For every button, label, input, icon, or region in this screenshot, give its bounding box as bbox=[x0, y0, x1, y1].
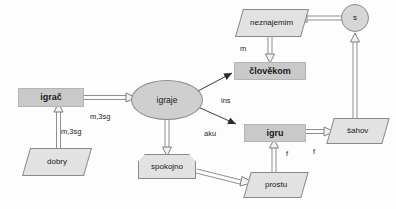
node-neznajemim[interactable]: neznajemim bbox=[235, 9, 309, 37]
node-spokojno[interactable]: spokojno bbox=[138, 154, 196, 179]
diagram-canvas: igrač dobry igraje spokojno člověkom nez… bbox=[0, 0, 396, 209]
node-igrac-label: igrač bbox=[40, 93, 62, 102]
node-clovekom-label: člověkom bbox=[249, 67, 291, 76]
node-neznajemim-label: neznajemim bbox=[250, 19, 293, 27]
edge-igraje-clovekom bbox=[198, 73, 232, 91]
edge-sahov-s-head bbox=[351, 33, 360, 42]
node-dobry[interactable]: dobry bbox=[22, 148, 92, 176]
node-prostu-label: prostu bbox=[265, 181, 287, 189]
node-igraje[interactable]: igraje bbox=[131, 80, 203, 120]
node-spokojno-label: spokojno bbox=[151, 163, 183, 171]
edge-label-aku: aku bbox=[204, 130, 216, 138]
node-igrac[interactable]: igrač bbox=[18, 88, 84, 107]
edge-label-ins: ins bbox=[221, 97, 231, 105]
edge-label-m: m bbox=[240, 45, 246, 53]
node-s-label: s bbox=[353, 14, 357, 22]
node-igru[interactable]: igru bbox=[244, 124, 306, 142]
edge-label-f-right: f bbox=[313, 148, 315, 156]
node-igraje-label: igraje bbox=[157, 96, 178, 105]
node-dobry-label: dobry bbox=[47, 158, 67, 166]
edge-label-m3sg-bottom: m,3sg bbox=[61, 128, 81, 136]
edge-igraje-igru bbox=[198, 107, 236, 124]
node-sahov-label: šahov bbox=[347, 127, 368, 135]
edge-label-m3sg-top: m,3sg bbox=[90, 113, 110, 121]
node-igru-label: igru bbox=[267, 129, 284, 138]
edge-label-f-left: f bbox=[286, 150, 288, 158]
edge-group-double bbox=[54, 14, 360, 187]
node-prostu[interactable]: prostu bbox=[243, 172, 308, 198]
node-sahov[interactable]: šahov bbox=[326, 118, 389, 144]
node-s[interactable]: s bbox=[341, 4, 369, 32]
node-clovekom[interactable]: člověkom bbox=[234, 62, 306, 80]
